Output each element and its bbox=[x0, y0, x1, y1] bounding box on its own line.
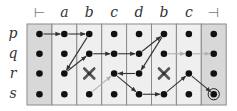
state-dot bbox=[136, 50, 143, 57]
column-label: c bbox=[110, 4, 118, 20]
state-dot bbox=[186, 31, 193, 38]
column-label: a bbox=[60, 4, 68, 20]
state-dot bbox=[161, 50, 168, 57]
column-label: b bbox=[85, 4, 94, 20]
state-dot bbox=[86, 31, 93, 38]
column-backgrounds bbox=[27, 24, 226, 105]
state-dot bbox=[36, 91, 43, 98]
state-dot bbox=[36, 50, 43, 57]
row-label: s bbox=[9, 85, 16, 101]
state-dot bbox=[61, 50, 68, 57]
state-dot bbox=[61, 91, 68, 98]
row-labels: pqrs bbox=[9, 25, 18, 101]
state-dot bbox=[186, 91, 193, 98]
state-dot bbox=[210, 70, 217, 77]
column-label: b bbox=[159, 4, 168, 20]
state-dot bbox=[210, 31, 217, 38]
state-dot bbox=[136, 31, 143, 38]
row-label: p bbox=[9, 25, 18, 41]
state-dot bbox=[161, 91, 168, 98]
state-dot bbox=[86, 50, 93, 57]
state-dot bbox=[111, 50, 118, 57]
row-label: r bbox=[10, 65, 18, 81]
column-label: d bbox=[135, 4, 144, 20]
state-dot bbox=[61, 31, 68, 38]
automaton-run-diagram: ⊢abcdbc⊣ pqrs bbox=[0, 0, 237, 111]
state-dot bbox=[61, 70, 68, 77]
state-dot bbox=[111, 31, 118, 38]
state-dot bbox=[210, 50, 217, 57]
state-dot bbox=[36, 31, 43, 38]
state-dot bbox=[136, 91, 143, 98]
column-labels: ⊢abcdbc⊣ bbox=[34, 4, 220, 20]
state-dot bbox=[186, 70, 193, 77]
state-dot bbox=[111, 70, 118, 77]
right-endmarker-label: ⊣ bbox=[208, 5, 219, 20]
column-label: c bbox=[185, 4, 193, 20]
row-label: q bbox=[9, 45, 18, 61]
state-dot bbox=[186, 50, 193, 57]
state-dot bbox=[136, 70, 143, 77]
state-dot bbox=[86, 91, 93, 98]
state-dot bbox=[161, 31, 168, 38]
state-dot bbox=[111, 91, 118, 98]
state-dot bbox=[36, 70, 43, 77]
state-dot bbox=[210, 91, 217, 98]
left-endmarker-label: ⊢ bbox=[34, 5, 45, 20]
